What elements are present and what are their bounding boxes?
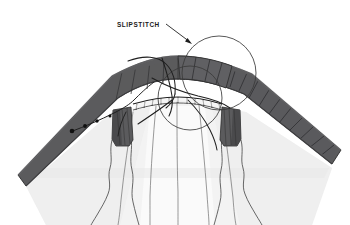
callout-leader — [166, 24, 192, 44]
slipstitch-figure: SLIPSTITCH — [0, 0, 350, 225]
illustration-canvas: SLIPSTITCH — [0, 0, 350, 225]
band-folded-flap — [178, 56, 232, 88]
callout-label: SLIPSTITCH — [117, 21, 160, 28]
right-facing-tab — [220, 107, 241, 146]
skirt-shadow-band — [20, 168, 340, 178]
